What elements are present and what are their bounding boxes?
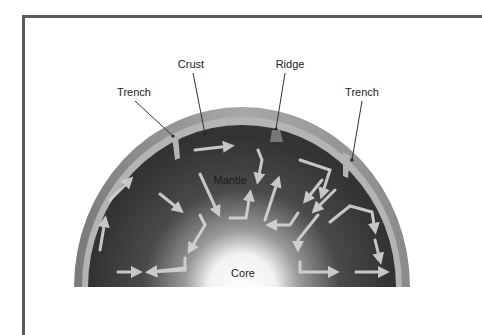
- leader-dot-crust: [204, 133, 207, 136]
- leader-dot-trench-left: [171, 134, 174, 137]
- leader-dot-ridge: [275, 128, 278, 131]
- label-core: Core: [231, 267, 255, 279]
- label-trench-left: Trench: [117, 86, 151, 98]
- leader-line-trench-right: [352, 101, 362, 160]
- label-mantle: Mantle: [213, 174, 246, 186]
- label-crust: Crust: [178, 58, 204, 70]
- label-trench-right: Trench: [345, 86, 379, 98]
- leader-line-trench-left: [135, 101, 173, 136]
- label-ridge: Ridge: [276, 58, 305, 70]
- leader-dot-trench-right: [350, 158, 353, 161]
